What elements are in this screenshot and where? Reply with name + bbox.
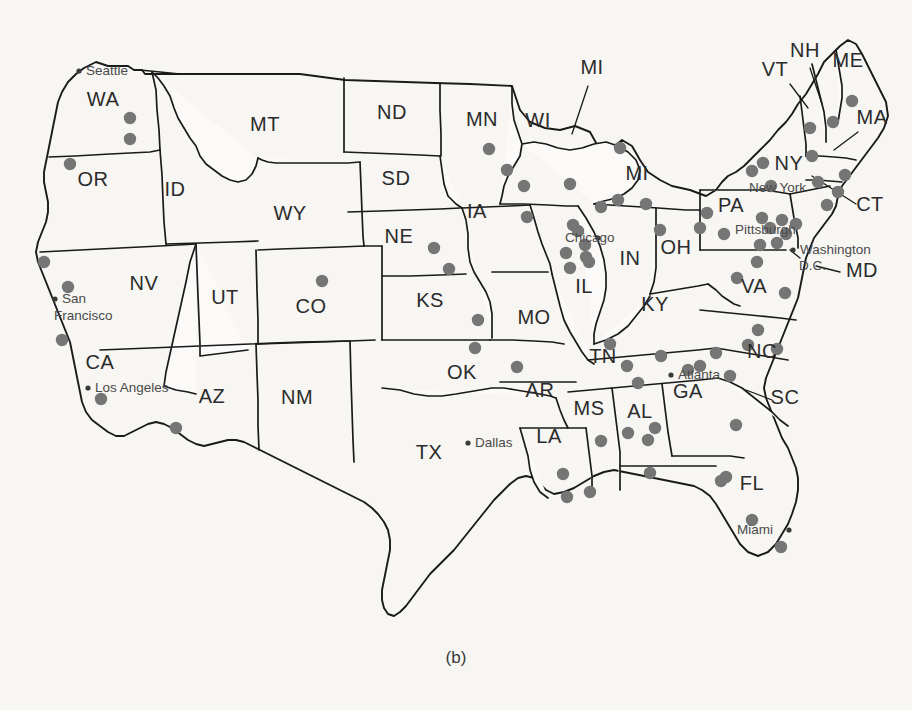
state-label-ia: IA [467,200,487,222]
state-label-mi: MI [625,162,648,184]
site-marker [557,468,569,480]
border-ok-ar-tx [490,340,564,344]
site-marker [644,467,656,479]
state-label-pa: PA [718,194,744,216]
site-marker [701,207,713,219]
state-label-co: CO [296,295,327,317]
border-ca-nv [164,244,196,394]
site-marker [827,116,839,128]
site-marker [612,194,624,206]
border-ut-co [256,250,258,344]
state-label-sd: SD [382,167,411,189]
site-marker [655,350,667,362]
border-va-nc [700,310,796,320]
site-marker [654,224,666,236]
site-marker [839,169,851,181]
state-label-la: LA [536,425,562,447]
site-marker [501,164,513,176]
city-label: Dallas [475,435,513,450]
city-label: Francisco [54,308,113,323]
site-marker [124,112,136,124]
site-marker [584,486,596,498]
state-label-ca: CA [86,351,115,373]
site-marker [751,256,763,268]
state-label-id: ID [165,178,186,200]
leader-mi-upper [572,86,588,134]
city-label: New York [749,180,806,195]
city-label: Atlanta [678,367,721,382]
site-marker [832,186,844,198]
site-marker [518,180,530,192]
site-marker [715,475,727,487]
border-ga-fl [672,456,744,458]
state-label-ok: OK [447,361,477,383]
border-wa-id [152,72,160,150]
state-label-mn: MN [466,108,498,130]
border-az-nm [256,344,259,450]
us-map-figure: WAORIDMTNDSDNEWYCOUTNVCAAZNMTXOKKSMNIAMO… [0,0,912,710]
figure-caption: (b) [0,648,912,668]
state-label-wi: WI [525,109,550,131]
border-wy-co [258,246,364,250]
state-label-ky: KY [641,293,669,315]
site-marker [595,435,607,447]
state-label-nd: ND [377,101,407,123]
site-marker [64,158,76,170]
city-label: Los Angeles [95,380,169,395]
city-dot [668,372,673,377]
border-id-mt [152,72,258,182]
site-marker [595,201,607,213]
state-label-oh: OH [661,236,692,258]
state-label-nh: NH [790,39,820,61]
state-label-va: VA [741,275,767,297]
state-label-ar: AR [526,379,555,401]
site-marker [124,133,136,145]
state-label-ga: GA [673,380,703,402]
site-marker [812,176,824,188]
state-label-ct: CT [856,193,884,215]
city-dot [85,385,90,390]
state-label-ms: MS [574,397,605,419]
site-marker [754,239,766,251]
city-dot [76,68,81,73]
state-label-mo: MO [517,306,550,328]
site-marker [614,142,626,154]
state-label-nc: NC [747,340,777,362]
state-label-md: MD [846,259,878,281]
state-label-tx: TX [416,441,443,463]
city-dot [786,527,791,532]
border-nd-sd [344,152,440,156]
state-label-sc: SC [771,386,800,408]
state-label-az: AZ [199,385,226,407]
site-marker [483,143,495,155]
border-ms-al [612,388,620,490]
city-label: D.C. [799,258,826,273]
state-label-nv: NV [130,272,159,294]
site-marker [56,334,68,346]
city-label: San [62,291,86,306]
state-label-ks: KS [416,289,444,311]
site-marker [170,422,182,434]
site-marker [472,314,484,326]
state-label-ny: NY [775,152,804,174]
site-marker [757,157,769,169]
state-label-nm: NM [281,386,313,408]
state-label-wy: WY [273,202,306,224]
state-label-in: IN [620,247,641,269]
border-mt-wy [258,158,360,163]
state-label-al: AL [627,400,652,422]
border-co-nm [258,340,375,344]
site-marker [746,165,758,177]
state-label-mt: MT [250,113,280,135]
site-marker [443,263,455,275]
site-marker [632,377,644,389]
site-marker [730,419,742,431]
city-dot [465,440,470,445]
city-label: Pittsburgh [735,222,796,237]
site-marker [38,256,50,268]
state-label-il: IL [575,275,593,297]
site-marker [622,427,634,439]
site-marker [771,237,783,249]
leader-ma [834,132,858,150]
border-ar-ms [556,398,568,428]
